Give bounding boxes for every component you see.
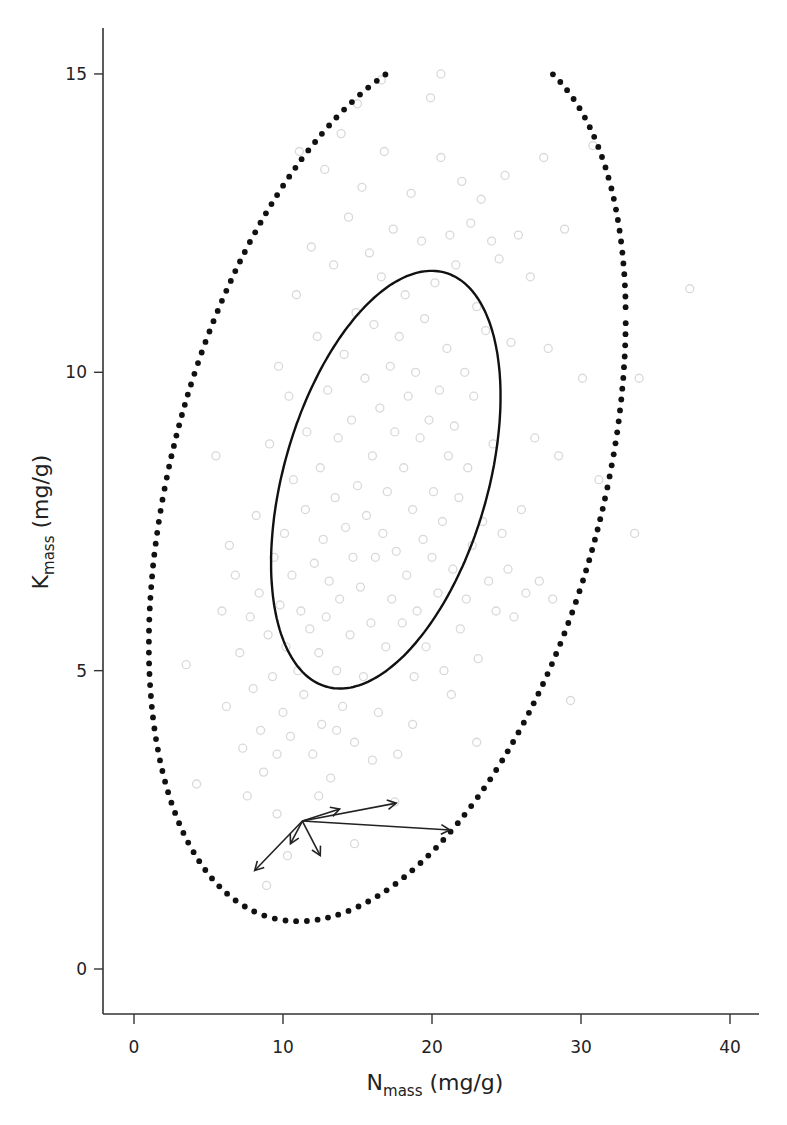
outer-ellipse-dot [577,105,583,111]
outer-ellipse-dot [176,422,182,428]
scatter-point [368,756,376,764]
outer-ellipse-dot [346,908,352,914]
loading-arrows [255,800,450,870]
scatter-point [276,601,284,609]
scatter-point [318,720,326,728]
loading-arrow [302,800,396,821]
scatter-point [319,535,327,543]
y-label-sub: mass [40,535,58,575]
outer-ellipse-dot [623,331,629,337]
outer-ellipse-dot [591,134,597,140]
scatter-point [303,428,311,436]
outer-ellipse-dot [357,92,363,98]
scatter-point [322,613,330,621]
scatter-point [367,619,375,627]
outer-ellipse-dot [305,148,311,154]
outer-ellipse-dot [621,364,627,370]
scatter-point [295,148,303,156]
outer-ellipse-dot [232,268,238,274]
outer-ellipse-dot [224,891,230,897]
scatter-point [301,506,309,514]
outer-ellipse-dot [499,758,505,764]
scatter-point [243,792,251,800]
scatter-point [252,512,260,520]
outer-ellipse-dot [564,87,570,93]
scatter-point [356,583,364,591]
scatter-point [392,547,400,555]
outer-ellipse-dot [487,776,493,782]
outer-ellipse-dot [146,639,152,645]
scatter-point [438,517,446,525]
outer-ellipse-dot [493,767,499,773]
outer-ellipse-dot [171,443,177,449]
scatter-point [462,595,470,603]
outer-ellipse-dot [409,867,415,873]
scatter-point [377,273,385,281]
outer-ellipse-dot [283,918,289,924]
outer-ellipse-dot [550,71,556,77]
outer-ellipse-dot [607,474,613,480]
scatter-point [361,374,369,382]
scatter-point [264,631,272,639]
outer-ellipse-dot [202,867,208,873]
scatter-point [488,237,496,245]
outer-ellipse-dot [621,271,627,277]
outer-ellipse-dot [586,557,592,563]
outer-ellipse-dot [148,595,154,601]
outer-ellipse-dot [462,812,468,818]
outer-ellipse-dot [158,508,164,514]
scatter-point [498,529,506,537]
outer-ellipse-dot [146,628,152,634]
outer-ellipse-dot [617,228,623,234]
scatter-point [310,559,318,567]
outer-ellipse-dot [335,912,341,918]
y-ticks: 051015 [65,64,103,979]
scatter-point [394,750,402,758]
outer-ellipse-dot [599,154,605,160]
outer-ellipse-dot [148,693,154,699]
outer-ellipse-dot [185,840,191,846]
scatter-point [535,577,543,585]
outer-ellipse-dot [164,475,170,481]
scatter-point [225,541,233,549]
outer-ellipse-dot [252,229,258,235]
scatter-point [336,595,344,603]
scatter-point [371,553,379,561]
scatter-point [447,691,455,699]
scatter-point [404,392,412,400]
scatter-point [380,148,388,156]
scatter-point [555,452,563,460]
scatter-point [514,231,522,239]
outer-ellipse-dot [622,342,628,348]
scatter-point [437,70,445,78]
y-tick-label: 10 [65,362,87,382]
outer-ellipse-dot [228,278,234,284]
outer-ellipse-dot [623,320,629,326]
scatter-point [362,512,370,520]
scatter-point [358,183,366,191]
outer-ellipse-dot [155,747,161,753]
scatter-point [182,661,190,669]
scatter-point [368,452,376,460]
scatter-points [182,70,694,890]
outer-ellipse-dot [237,259,243,265]
x-tick-label: 30 [570,1037,592,1057]
scatter-point [263,881,271,889]
scatter-point [444,452,452,460]
scatter-point [398,619,406,627]
outer-ellipse-dot [326,123,332,129]
outer-ellipse-dot [401,874,407,880]
outer-ellipse-dot [609,462,615,468]
scatter-point [428,553,436,561]
scatter-point [391,428,399,436]
outer-ellipse-dot [150,715,156,721]
outer-ellipse-dot [595,527,601,533]
outer-ellipse-dot [549,661,555,667]
scatter-point [635,374,643,382]
scatter-point [418,237,426,245]
outer-ellipse-dot [247,239,253,245]
scatter-point [330,261,338,269]
outer-ellipse-dot [602,496,608,502]
outer-ellipse-dot [455,820,461,826]
outer-ellipse-dot [557,79,563,85]
